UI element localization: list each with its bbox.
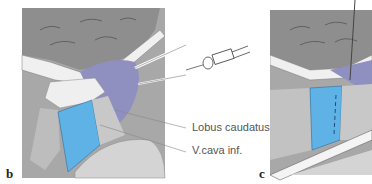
- panel-letter-b: b: [6, 166, 13, 182]
- panel-letter-c: c: [259, 166, 265, 182]
- illustration-panel-b: [0, 0, 186, 184]
- label-vena-cava-inf: V.cava inf.: [192, 144, 242, 156]
- vena-cava: [310, 86, 342, 150]
- instrument-probe: [186, 40, 256, 80]
- label-lobus-caudatus: Lobus caudatus: [192, 121, 270, 133]
- illustration-panel-c: [270, 0, 372, 184]
